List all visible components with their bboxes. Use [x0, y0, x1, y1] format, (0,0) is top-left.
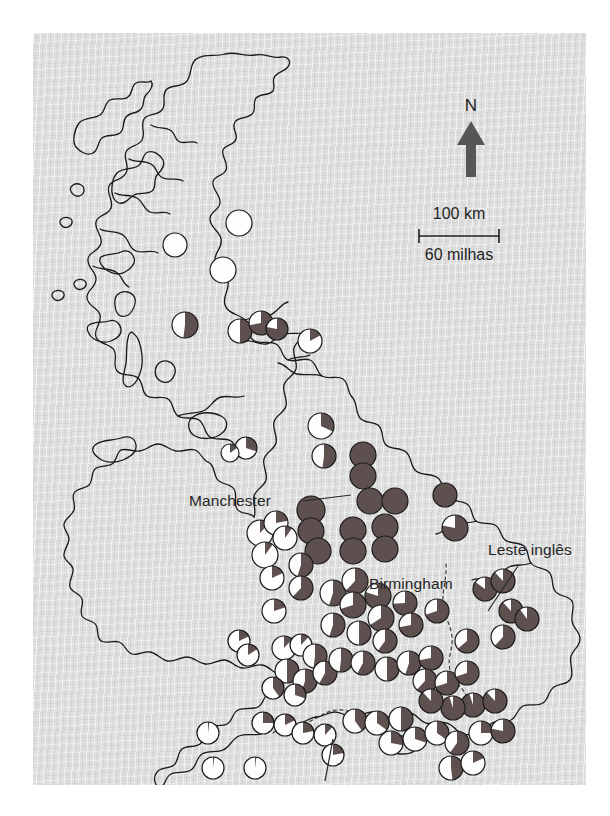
- pie-marker: [340, 592, 366, 618]
- pie-marker: [226, 210, 252, 236]
- pie-marker: [389, 707, 413, 731]
- pie-marker: [425, 599, 449, 623]
- pie-marker: [368, 605, 394, 631]
- pie-marker: [289, 576, 313, 600]
- pie-marker: [455, 661, 479, 685]
- map-panel: N 100 km 60 milhas ManchesterBirminghamL…: [33, 33, 586, 785]
- island-jura: [115, 292, 135, 317]
- pie-marker: [284, 684, 306, 706]
- scotland-loch-4: [100, 229, 158, 253]
- pie-marker: [442, 515, 468, 541]
- island-arran: [155, 361, 175, 383]
- pie-dark-wedge: [183, 312, 198, 338]
- pie-marker: [375, 657, 399, 681]
- pie-marker: [322, 744, 344, 766]
- island-islay: [87, 320, 121, 342]
- scale-bar-miles-label: 60 milhas: [425, 246, 493, 263]
- pie-marker: [262, 599, 286, 623]
- pie-marker: [347, 621, 371, 645]
- pie-marker: [365, 711, 389, 735]
- pie-marker: [515, 607, 539, 631]
- wales-west-coast: [64, 450, 121, 641]
- page-root: N 100 km 60 milhas ManchesterBirminghamL…: [0, 0, 610, 816]
- pie-marker: [228, 319, 252, 343]
- pie-marker: [461, 751, 485, 775]
- pie-marker: [292, 722, 314, 744]
- pie-marker: [357, 488, 383, 514]
- island-mull: [100, 251, 135, 274]
- pie-marker: [491, 719, 515, 743]
- pie-marker: [244, 757, 266, 779]
- pie-marker: [403, 727, 427, 751]
- scotland-loch-5: [93, 266, 129, 287]
- pie-marker: [350, 463, 376, 489]
- pie-marker: [382, 488, 408, 514]
- place-label: Birmingham: [369, 575, 453, 592]
- pie-marker: [342, 568, 368, 594]
- pie-marker: [373, 629, 397, 653]
- pie-marker: [252, 712, 274, 734]
- pie-marker: [379, 731, 403, 755]
- pie-marker: [393, 591, 417, 615]
- scotland-outline: [195, 53, 352, 397]
- pie-marker: [321, 613, 345, 637]
- pie-marker: [419, 646, 443, 670]
- scale-bar-km-label: 100 km: [433, 205, 485, 222]
- place-label: Manchester: [189, 492, 271, 509]
- island-lewis-harris: [74, 81, 152, 154]
- island-small-3: [74, 279, 86, 289]
- pie-marker: [260, 566, 284, 590]
- pie-marker: [221, 444, 239, 462]
- pie-marker: [399, 613, 423, 637]
- north-arrow-glyph: [457, 121, 485, 177]
- island-small-1: [70, 184, 84, 196]
- pie-marker: [343, 709, 367, 733]
- pie-marker: [441, 696, 465, 720]
- pie-marker: [340, 538, 366, 564]
- north-arrow: N: [457, 96, 485, 177]
- wales-south-coast: [101, 641, 205, 664]
- pie-marker: [439, 756, 463, 780]
- scotland-loch-1: [151, 125, 197, 143]
- pie-marker: [491, 625, 515, 649]
- pie-marker: [372, 536, 398, 562]
- pie-marker: [308, 413, 334, 439]
- pie-marker: [237, 644, 259, 666]
- pie-marker: [469, 721, 493, 745]
- pie-marker: [312, 444, 336, 468]
- pie-marker: [445, 731, 469, 755]
- pie-marker: [351, 651, 375, 675]
- pie-marker: [433, 483, 457, 507]
- pie-marker: [455, 629, 479, 653]
- scale-bar: 100 km 60 milhas: [419, 205, 499, 263]
- pie-marker: [262, 677, 284, 699]
- pie-marker: [329, 648, 353, 672]
- place-label: Dorset: [315, 783, 362, 785]
- island-small-2: [60, 217, 72, 227]
- north-arrow-label: N: [465, 96, 477, 115]
- pie-marker: [298, 329, 322, 353]
- island-small-4: [52, 290, 64, 300]
- pie-marker: [252, 542, 278, 568]
- island-skye: [112, 152, 164, 204]
- pie-marker: [273, 526, 297, 550]
- pie-marker: [197, 722, 219, 744]
- map-figure: N 100 km 60 milhas ManchesterBirminghamL…: [33, 33, 586, 785]
- pie-marker: [202, 757, 224, 779]
- place-label: Leste inglês: [488, 541, 572, 558]
- pie-marker: [289, 553, 313, 577]
- pie-marker: [266, 318, 288, 340]
- pie-marker: [210, 257, 236, 283]
- pie-marker: [163, 233, 187, 257]
- pie-marker: [419, 689, 443, 713]
- pie-dark-wedge: [322, 444, 336, 468]
- pie-marker: [172, 312, 198, 338]
- pie-marker: [483, 689, 507, 713]
